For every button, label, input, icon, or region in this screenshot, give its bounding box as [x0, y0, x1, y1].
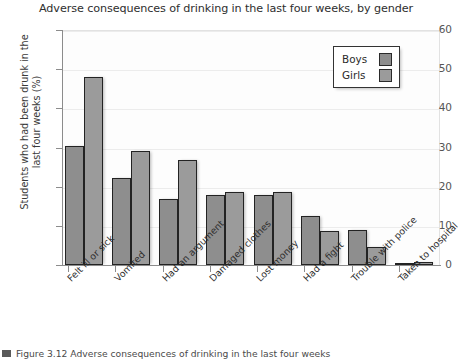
gridline	[62, 31, 439, 32]
bar-girls-felt-ill-or-sick	[84, 77, 103, 265]
x-axis-line	[62, 265, 441, 266]
gridline	[62, 109, 439, 110]
y-axis-tick-label: 20	[402, 180, 452, 192]
figure-marker-icon	[2, 350, 11, 357]
legend-item-girls: Girls	[342, 67, 392, 83]
y-axis-tick	[56, 69, 62, 70]
legend-swatch-boys	[379, 53, 392, 66]
gridline	[62, 149, 439, 150]
legend-item-boys: Boys	[342, 51, 392, 67]
y-axis-tick-label: 30	[402, 141, 452, 153]
y-axis-tick	[56, 226, 62, 227]
bar-boys-felt-ill-or-sick	[65, 146, 84, 265]
chart-legend: Boys Girls	[333, 46, 400, 88]
legend-label-girls: Girls	[342, 69, 366, 81]
y-axis-tick	[56, 187, 62, 188]
bar-girls-vomited	[131, 151, 150, 265]
y-axis-title: Students who had been drunk in the last …	[19, 32, 43, 212]
y-axis-tick	[56, 108, 62, 109]
y-axis-tick	[56, 265, 62, 266]
figure-caption-text: Figure 3.12 Adverse consequences of drin…	[16, 348, 330, 359]
bar-boys-had-a-fight	[301, 216, 320, 265]
figure-caption: Figure 3.12 Adverse consequences of drin…	[0, 348, 452, 359]
bar-boys-had-an-argument	[159, 199, 178, 265]
chart-title: Adverse consequences of drinking in the …	[0, 2, 452, 15]
bar-boys-vomited	[112, 178, 131, 265]
y-axis-tick-label: 40	[402, 101, 452, 113]
y-axis-tick-label: 50	[402, 62, 452, 74]
legend-swatch-girls	[379, 69, 392, 82]
y-axis-line	[62, 30, 63, 266]
y-axis-tick	[56, 30, 62, 31]
legend-label-boys: Boys	[342, 53, 367, 65]
y-axis-tick	[56, 148, 62, 149]
y-axis-tick-label: 60	[402, 23, 452, 35]
